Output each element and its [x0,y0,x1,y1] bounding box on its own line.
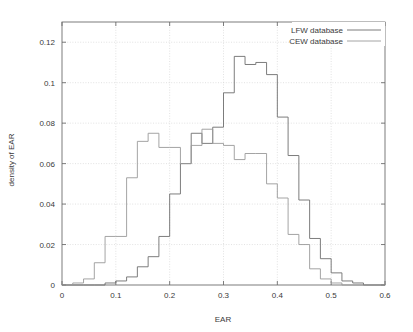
legend-label-0: LFW database [291,26,344,35]
density-histogram-chart: 00.10.20.30.40.50.6 00.020.040.060.080.1… [0,0,413,332]
y-tick-label: 0.12 [39,38,55,47]
y-axis-title: density of EAR [7,133,16,186]
y-tick-label: 0.02 [39,241,55,250]
y-tick-label: 0.08 [39,119,55,128]
x-axis-title: EAR [215,315,232,324]
y-tick-label: 0.1 [44,79,56,88]
x-tick-label: 0 [60,291,65,300]
y-tick-label: 0 [51,281,56,290]
y-tick-label: 0.06 [39,160,55,169]
x-tick-label: 0.1 [110,291,122,300]
x-tick-label: 0.3 [218,291,230,300]
y-tick-label: 0.04 [39,200,55,209]
x-tick-label: 0.4 [272,291,284,300]
chart-figure: 00.10.20.30.40.50.6 00.020.040.060.080.1… [0,0,413,332]
x-tick-label: 0.6 [379,291,391,300]
chart-legend: LFW databaseCEW database [289,22,385,46]
legend-label-1: CEW database [289,37,343,46]
x-tick-label: 0.5 [326,291,338,300]
x-tick-label: 0.2 [164,291,176,300]
